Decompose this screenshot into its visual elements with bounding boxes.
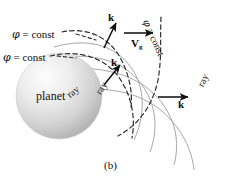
leader-phi-top (76, 34, 96, 40)
figure-panel-b: φ = const φ = const φ = const ray ray ra… (0, 0, 229, 182)
k-middle-label: k (111, 57, 117, 68)
phi-symbol-top: φ (12, 28, 20, 41)
k-top-symbol: k (108, 11, 114, 23)
k-right-label: k (178, 99, 184, 110)
vg-subscript: g (139, 43, 143, 51)
k-middle-symbol: k (111, 56, 117, 68)
planet-label: planet (36, 90, 65, 102)
phi-equals-top: = const (20, 28, 55, 40)
k-right-symbol: k (178, 98, 184, 110)
wavefront-label-mid: φ = const (3, 52, 46, 63)
wavefront-label-top: φ = const (12, 29, 55, 40)
phi-symbol-mid: φ (3, 51, 11, 64)
vg-label: Vg (131, 38, 142, 49)
phi-equals-mid: = const (11, 51, 46, 63)
figure-caption: (b) (104, 160, 117, 171)
k-top-label: k (108, 12, 114, 23)
k-top-arrow (104, 23, 116, 48)
vg-symbol: V (131, 37, 139, 49)
